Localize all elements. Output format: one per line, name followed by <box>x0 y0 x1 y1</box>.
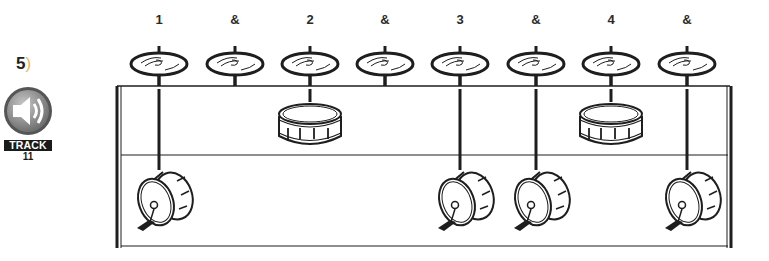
bass-drum-icon <box>132 167 199 231</box>
drum-notation <box>0 0 769 261</box>
bass-drum-icon <box>660 167 727 231</box>
snare-drum-icon <box>279 104 341 144</box>
cymbal-icon <box>282 46 338 86</box>
snare-drum-icon <box>580 104 642 144</box>
cymbal-icon <box>357 46 413 86</box>
bass-drum-icon <box>433 167 500 231</box>
cymbal-icon <box>432 46 488 86</box>
cymbal-icon <box>207 46 263 86</box>
cymbal-icon <box>131 46 187 86</box>
bass-drum-icon <box>509 167 576 231</box>
cymbal-icon <box>659 46 715 86</box>
cymbal-icon <box>583 46 639 86</box>
cymbal-icon <box>508 46 564 86</box>
